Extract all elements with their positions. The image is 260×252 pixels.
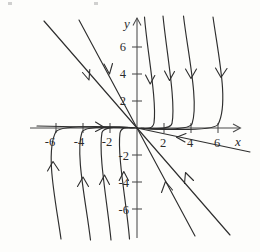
y-tick-label-6: 6 [120,40,126,54]
phase-portrait-figure: -6 -4 -2 2 4 6 6 4 2 -2 -4 -6 x y [0,0,260,252]
y-tick-label-4: 4 [120,67,127,81]
trajectory-straight-upper-left-inner [79,20,137,128]
trajectory-curve-upper-right-1 [139,17,155,129]
x-tick-label-2: 2 [160,136,166,150]
x-tick-label--2: -2 [102,135,112,149]
y-axis-label: y [122,16,130,31]
x-tick-label-4: 4 [187,136,194,150]
x-axis-label: x [234,134,241,149]
phase-portrait-plot: -6 -4 -2 2 4 6 6 4 2 -2 -4 -6 x y [0,0,260,252]
x-tick-label-6: 6 [214,136,220,150]
x-axis-tick-labels: -6 -4 -2 2 4 6 [45,135,220,150]
